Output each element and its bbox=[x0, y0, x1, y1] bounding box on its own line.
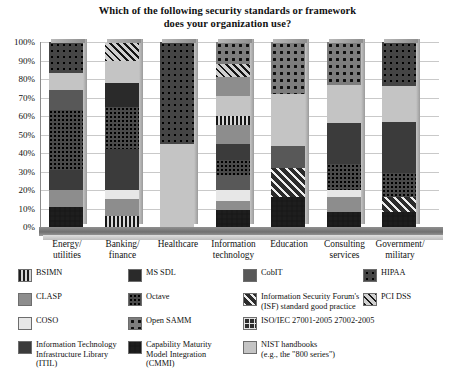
bar-segment bbox=[327, 123, 361, 164]
legend-item[interactable]: BSIMN bbox=[18, 268, 62, 282]
legend-label: Information Security Forum's (ISF) stand… bbox=[261, 292, 359, 311]
legend-label: COSO bbox=[36, 316, 58, 326]
x-axis-label-7: Government/military bbox=[370, 239, 430, 261]
bar-3[interactable] bbox=[160, 42, 198, 227]
legend-label: CobIT bbox=[261, 268, 283, 278]
bar-segment bbox=[382, 122, 416, 174]
legend-item[interactable]: Capability Maturity Model Integration (C… bbox=[128, 340, 212, 369]
y-axis-tick-label: 10% bbox=[19, 204, 36, 214]
bar-segment bbox=[105, 199, 139, 216]
x-axis-label-line: military bbox=[370, 250, 430, 261]
legend-label: Information Technology Infrastructure Li… bbox=[36, 340, 117, 369]
x-axis-categories: Energy/utilitiesBanking/financeHealthcar… bbox=[41, 239, 445, 265]
legend-item[interactable]: CLASP bbox=[18, 292, 62, 306]
y-axis-tick-label: 0% bbox=[23, 222, 35, 232]
bar-1[interactable] bbox=[49, 42, 87, 227]
legend-item[interactable]: Open SAMM bbox=[128, 316, 191, 330]
x-axis-label-line: Energy/ bbox=[37, 239, 97, 250]
bar-segment bbox=[216, 42, 250, 64]
chart-base-slab bbox=[39, 227, 443, 236]
legend-swatch bbox=[18, 293, 32, 306]
legend-item[interactable]: HIPAA bbox=[363, 268, 406, 282]
x-axis-label-line: Healthcare bbox=[148, 239, 208, 250]
legend-label: CLASP bbox=[36, 292, 62, 302]
x-axis-label-line: utilities bbox=[37, 250, 97, 261]
bar-segment bbox=[160, 42, 194, 144]
chart-title-line-1: Which of the following security standard… bbox=[99, 5, 356, 16]
bar-column bbox=[271, 42, 305, 227]
bar-6[interactable] bbox=[327, 42, 365, 227]
bar-segment bbox=[271, 42, 305, 94]
bar-segment bbox=[105, 216, 139, 227]
bar-segment bbox=[216, 64, 250, 77]
plot-area bbox=[41, 42, 439, 227]
chart-legend: BSIMNCLASPCOSOInformation Technology Inf… bbox=[0, 266, 455, 377]
bar-top-face bbox=[162, 39, 196, 43]
legend-swatch bbox=[243, 317, 257, 330]
legend-swatch bbox=[363, 269, 377, 282]
y-axis-labels: 100%90%80%70%60%50%40%30%20%10%0% bbox=[0, 36, 38, 232]
bar-segment bbox=[382, 197, 416, 212]
bar-top-face bbox=[218, 39, 252, 43]
legend-item[interactable]: NIST handbooks (e.g., the "800 series") bbox=[243, 340, 335, 359]
legend-label: Open SAMM bbox=[146, 316, 191, 326]
legend-swatch bbox=[128, 269, 142, 282]
legend-item[interactable]: COSO bbox=[18, 316, 58, 330]
y-axis-tick-label: 100% bbox=[14, 37, 35, 47]
bar-5[interactable] bbox=[271, 42, 309, 227]
bar-segment bbox=[382, 173, 416, 197]
legend-item[interactable]: Octave bbox=[128, 292, 170, 306]
bar-top-face bbox=[51, 39, 85, 43]
bar-segment bbox=[49, 170, 83, 190]
legend-item[interactable]: Information Technology Infrastructure Li… bbox=[18, 340, 117, 369]
bar-segment bbox=[327, 190, 361, 197]
bar-7[interactable] bbox=[382, 42, 420, 227]
chart-title-line-2: does your organization use? bbox=[0, 17, 455, 30]
bar-2[interactable] bbox=[105, 42, 143, 227]
legend-item[interactable]: PCI DSS bbox=[363, 292, 411, 306]
legend-swatch bbox=[128, 293, 142, 306]
legend-swatch bbox=[18, 269, 32, 282]
bar-segment bbox=[105, 190, 139, 199]
bar-column bbox=[327, 42, 361, 227]
bar-segment bbox=[271, 168, 305, 198]
legend-item[interactable]: MS SDL bbox=[128, 268, 176, 282]
bar-segment bbox=[327, 212, 361, 227]
legend-label: BSIMN bbox=[36, 268, 62, 278]
bar-segment bbox=[216, 77, 250, 96]
legend-label: NIST handbooks (e.g., the "800 series") bbox=[261, 340, 335, 359]
bar-segment bbox=[105, 61, 139, 83]
bar-segment bbox=[49, 190, 83, 207]
bar-segment bbox=[105, 149, 139, 190]
x-axis-label-line: Government/ bbox=[370, 239, 430, 250]
bar-segment bbox=[216, 190, 250, 201]
bar-segment bbox=[327, 42, 361, 85]
bar-4[interactable] bbox=[216, 42, 254, 227]
bar-segment bbox=[216, 96, 250, 116]
x-axis-label-5: Education bbox=[259, 239, 319, 250]
x-axis-label-6: Consultingservices bbox=[315, 239, 375, 261]
bar-segment bbox=[160, 144, 194, 227]
legend-item[interactable]: ISO/IEC 27001-2005 27002-2005 bbox=[243, 316, 374, 330]
y-axis-tick-label: 80% bbox=[19, 74, 36, 84]
legend-item[interactable]: CobIT bbox=[243, 268, 283, 282]
y-axis-tick-label: 70% bbox=[19, 93, 36, 103]
bar-segment bbox=[382, 212, 416, 227]
bar-segment bbox=[105, 107, 139, 150]
legend-label: Octave bbox=[146, 292, 170, 302]
bar-column bbox=[160, 42, 194, 227]
bar-segment bbox=[49, 90, 83, 110]
bar-segment bbox=[216, 210, 250, 227]
bar-top-face bbox=[273, 39, 307, 43]
bar-segment bbox=[327, 164, 361, 190]
bar-segment bbox=[271, 197, 305, 227]
legend-swatch bbox=[243, 269, 257, 282]
x-axis-label-line: Consulting bbox=[315, 239, 375, 250]
bar-segment bbox=[216, 201, 250, 210]
legend-item[interactable]: Information Security Forum's (ISF) stand… bbox=[243, 292, 359, 311]
legend-swatch bbox=[128, 341, 142, 354]
legend-swatch bbox=[243, 293, 257, 306]
bar-column bbox=[382, 42, 416, 227]
legend-label: Capability Maturity Model Integration (C… bbox=[146, 340, 212, 369]
x-axis-label-line: Information bbox=[204, 239, 264, 250]
